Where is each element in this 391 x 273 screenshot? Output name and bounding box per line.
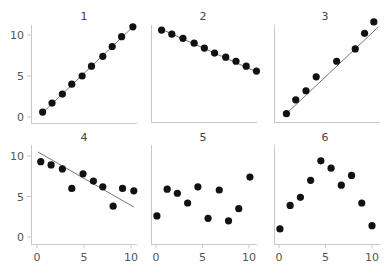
panel-title: 1 — [81, 10, 88, 23]
data-point — [307, 177, 314, 184]
data-point — [348, 172, 355, 179]
data-point — [99, 183, 106, 190]
x-tick-label: 10 — [242, 251, 256, 264]
data-point — [184, 199, 191, 206]
data-point — [59, 90, 66, 97]
data-point — [243, 63, 250, 70]
data-point — [327, 165, 334, 172]
y-tick-label: 10 — [10, 29, 24, 42]
data-point — [232, 58, 239, 65]
data-point — [39, 108, 46, 115]
data-point — [109, 43, 116, 50]
data-point — [99, 53, 106, 60]
x-tick-label: 0 — [276, 251, 283, 264]
x-tick-label: 5 — [322, 251, 329, 264]
panel-1: 10510 — [10, 10, 137, 124]
data-point — [352, 45, 359, 52]
data-point — [194, 183, 201, 190]
panel-2: 2 — [151, 10, 260, 123]
x-tick-label: 0 — [34, 251, 41, 264]
data-point — [211, 49, 218, 56]
data-point — [191, 40, 198, 47]
data-point — [90, 178, 97, 185]
data-point — [48, 99, 55, 106]
x-tick-label: 5 — [199, 251, 206, 264]
panel-title: 6 — [322, 131, 329, 144]
regression-line — [285, 27, 379, 116]
data-point — [292, 96, 299, 103]
small-multiples-scatter-grid: 10510234051005105051060510 — [0, 0, 391, 273]
x-tick-label: 5 — [81, 251, 88, 264]
data-point — [110, 203, 117, 210]
chart-canvas: 10510234051005105051060510 — [0, 0, 391, 273]
data-point — [179, 35, 186, 42]
data-point — [158, 26, 165, 33]
data-point — [130, 187, 137, 194]
data-point — [370, 18, 377, 25]
data-point — [129, 23, 136, 30]
data-point — [79, 170, 86, 177]
regression-line — [38, 152, 134, 207]
y-tick-label: 5 — [17, 191, 24, 204]
x-tick-label: 0 — [153, 251, 160, 264]
x-tick-label: 10 — [124, 251, 138, 264]
y-tick-label: 0 — [17, 111, 24, 124]
data-point — [79, 72, 86, 79]
data-point — [216, 186, 223, 193]
data-point — [235, 205, 242, 212]
panel-5: 50510 — [151, 131, 257, 264]
data-point — [361, 30, 368, 37]
data-point — [59, 165, 66, 172]
data-point — [302, 87, 309, 94]
panel-title: 2 — [200, 10, 207, 23]
data-point — [222, 54, 229, 61]
data-point — [88, 63, 95, 70]
data-point — [358, 199, 365, 206]
data-point — [201, 45, 208, 52]
data-point — [37, 158, 44, 165]
data-point — [246, 173, 253, 180]
data-point — [253, 67, 260, 74]
data-point — [118, 33, 125, 40]
y-tick-label: 5 — [17, 70, 24, 83]
data-point — [119, 185, 126, 192]
data-point — [368, 222, 375, 229]
y-tick-label: 10 — [10, 150, 24, 163]
data-point — [204, 215, 211, 222]
panel-title: 3 — [322, 10, 329, 23]
panel-title: 4 — [81, 131, 88, 144]
data-point — [168, 31, 175, 38]
data-point — [48, 161, 55, 168]
data-point — [317, 157, 324, 164]
data-point — [68, 185, 75, 192]
data-point — [283, 110, 290, 117]
data-point — [225, 217, 232, 224]
data-point — [287, 202, 294, 209]
data-point — [174, 190, 181, 197]
data-point — [164, 186, 171, 193]
panel-title: 5 — [200, 131, 207, 144]
panel-3: 3 — [274, 10, 380, 123]
data-point — [313, 73, 320, 80]
y-tick-label: 0 — [17, 231, 24, 244]
data-point — [297, 194, 304, 201]
data-point — [338, 182, 345, 189]
panel-4: 405100510 — [10, 131, 138, 264]
data-point — [333, 58, 340, 65]
data-point — [153, 212, 160, 219]
data-point — [68, 81, 75, 88]
data-point — [276, 225, 283, 232]
panel-6: 60510 — [274, 131, 380, 264]
x-tick-label: 10 — [365, 251, 379, 264]
